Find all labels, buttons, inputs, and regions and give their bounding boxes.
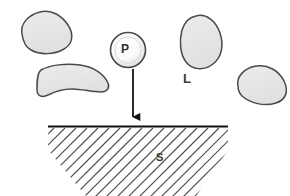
particle-label: P (121, 43, 129, 55)
diagram-canvas: P L S (0, 0, 290, 196)
blob-top-left (22, 11, 72, 53)
blob-mid-left (37, 64, 109, 96)
solid-label: S (156, 152, 163, 163)
blob-top-right (180, 15, 222, 68)
substrate-hatching (0, 128, 263, 196)
diagram-svg (0, 0, 290, 196)
blob-right (238, 66, 287, 105)
liquid-label: L (183, 72, 191, 85)
blob-group (22, 11, 287, 104)
